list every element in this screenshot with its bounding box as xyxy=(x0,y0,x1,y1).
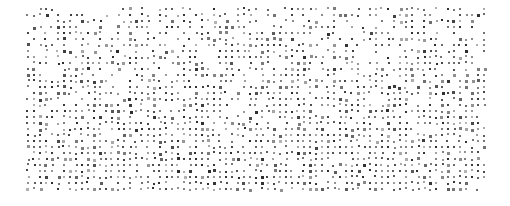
pattern-dot xyxy=(256,158,258,160)
pattern-dot xyxy=(339,146,341,148)
pattern-dot xyxy=(152,50,154,52)
pattern-dot xyxy=(244,127,246,129)
pattern-dot xyxy=(465,164,467,166)
pattern-dot xyxy=(165,99,167,101)
pattern-dot xyxy=(333,56,336,59)
pattern-dot xyxy=(153,98,156,101)
pattern-dot xyxy=(45,45,47,47)
pattern-dot xyxy=(207,139,210,142)
pattern-dot xyxy=(111,61,114,64)
pattern-dot xyxy=(45,92,47,94)
pattern-dot xyxy=(225,56,227,58)
pattern-dot xyxy=(344,80,346,82)
pattern-dot xyxy=(332,165,334,167)
pattern-dot xyxy=(27,85,29,87)
pattern-dot xyxy=(105,140,107,142)
pattern-dot xyxy=(141,75,143,77)
pattern-dot xyxy=(387,32,389,34)
pattern-dot xyxy=(226,104,228,106)
pattern-dot xyxy=(334,187,336,189)
pattern-dot xyxy=(429,21,432,24)
pattern-dot xyxy=(297,127,300,130)
pattern-dot xyxy=(164,44,166,46)
pattern-dot xyxy=(68,182,70,184)
pattern-dot xyxy=(280,26,282,28)
pattern-dot xyxy=(250,62,252,64)
pattern-dot xyxy=(303,182,306,185)
pattern-dot xyxy=(189,21,191,23)
pattern-dot xyxy=(212,129,214,131)
pattern-dot xyxy=(274,164,277,167)
pattern-dot xyxy=(440,116,443,119)
pattern-dot xyxy=(249,44,252,47)
pattern-dot xyxy=(255,20,257,22)
pattern-dot xyxy=(123,140,125,142)
pattern-dot xyxy=(309,170,312,173)
pattern-dot xyxy=(183,45,185,47)
pattern-dot xyxy=(381,68,384,71)
pattern-dot xyxy=(297,74,299,76)
pattern-dot xyxy=(68,68,70,70)
pattern-dot xyxy=(321,170,323,172)
pattern-dot xyxy=(249,21,251,23)
pattern-dot xyxy=(33,61,35,63)
pattern-dot xyxy=(129,57,131,59)
pattern-dot xyxy=(417,32,419,34)
pattern-dot xyxy=(465,50,468,53)
pattern-dot xyxy=(99,104,101,106)
pattern-dot xyxy=(39,13,41,15)
pattern-dot xyxy=(369,135,371,137)
pattern-dot xyxy=(399,134,401,136)
pattern-dot xyxy=(411,38,413,40)
pattern-dot xyxy=(166,176,168,178)
pattern-dot xyxy=(465,61,467,63)
pattern-dot xyxy=(214,21,217,24)
pattern-dot xyxy=(291,182,293,184)
pattern-dot xyxy=(356,122,358,124)
pattern-dot xyxy=(255,68,257,70)
pattern-dot xyxy=(392,38,394,40)
pattern-dot xyxy=(122,62,125,65)
pattern-dot xyxy=(399,104,401,106)
pattern-dot xyxy=(171,122,173,124)
pattern-dot xyxy=(459,86,461,88)
pattern-dot xyxy=(453,26,455,28)
pattern-dot xyxy=(255,177,257,179)
pattern-dot xyxy=(57,55,59,57)
pattern-dot xyxy=(219,159,221,161)
pattern-dot xyxy=(99,93,101,95)
pattern-dot xyxy=(26,122,28,124)
pattern-dot xyxy=(393,69,395,71)
pattern-dot xyxy=(298,104,300,106)
pattern-dot xyxy=(375,164,377,166)
pattern-dot xyxy=(165,151,167,153)
pattern-dot xyxy=(213,104,215,106)
pattern-dot xyxy=(100,182,103,185)
pattern-dot xyxy=(442,151,444,153)
pattern-dot xyxy=(339,152,341,154)
pattern-dot xyxy=(429,62,431,64)
pattern-dot xyxy=(411,20,413,22)
pattern-dot xyxy=(147,187,149,189)
pattern-dot xyxy=(261,163,263,165)
pattern-dot xyxy=(429,97,431,99)
pattern-dot xyxy=(471,92,474,95)
pattern-dot xyxy=(207,85,209,87)
pattern-dot xyxy=(152,74,155,77)
pattern-dot xyxy=(219,104,221,106)
pattern-dot xyxy=(171,99,173,101)
pattern-dot xyxy=(393,141,395,143)
pattern-dot xyxy=(158,80,160,82)
pattern-dot xyxy=(290,98,292,100)
pattern-dot xyxy=(447,26,449,28)
pattern-dot xyxy=(453,9,455,11)
pattern-dot xyxy=(333,20,335,22)
pattern-dot xyxy=(51,44,53,46)
pattern-dot xyxy=(273,81,275,83)
pattern-dot xyxy=(447,20,449,22)
pattern-dot xyxy=(321,140,323,142)
pattern-dot xyxy=(327,187,329,189)
pattern-dot xyxy=(117,25,120,28)
pattern-dot xyxy=(369,146,371,148)
pattern-dot xyxy=(129,182,131,184)
